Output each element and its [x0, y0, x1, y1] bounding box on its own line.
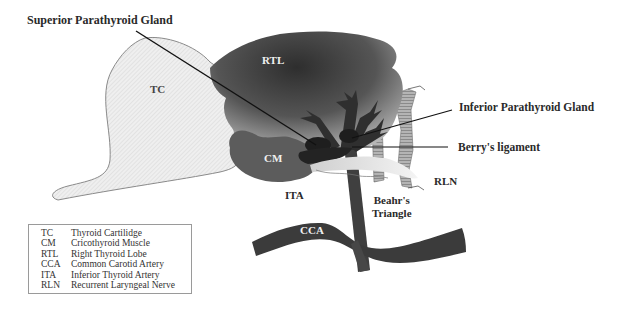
rtl-label: RTL [262, 54, 284, 66]
legend-box: TCThyroid Cartilidge CMCricothyroid Musc… [28, 224, 192, 294]
rln-label: RLN [434, 175, 457, 187]
legend-item: TCThyroid Cartilidge [41, 228, 191, 238]
legend-item: CMCricothyroid Muscle [41, 238, 191, 248]
cm-label: CM [264, 152, 282, 164]
inferior-parathyroid-gland [339, 129, 359, 143]
beahrs-triangle-label: Beahr's Triangle [372, 194, 412, 220]
berrys-ligament-label: Berry's ligament [458, 141, 540, 153]
legend-item: ITAInferior Thyroid Artery [41, 270, 191, 280]
inferior-parathyroid-label: Inferior Parathyroid Gland [459, 101, 594, 113]
legend-item: RTLRight Thyroid Lobe [41, 249, 191, 259]
legend-item: CCACommon Carotid Artery [41, 259, 191, 269]
legend-item: RLNRecurrent Laryngeal Nerve [41, 280, 191, 290]
tc-label: TC [150, 83, 165, 95]
ita-label: ITA [285, 189, 304, 201]
thyroid-cartilage-shape [53, 37, 240, 200]
superior-parathyroid-label: Superior Parathyroid Gland [27, 13, 173, 28]
cca-label: CCA [300, 224, 324, 236]
